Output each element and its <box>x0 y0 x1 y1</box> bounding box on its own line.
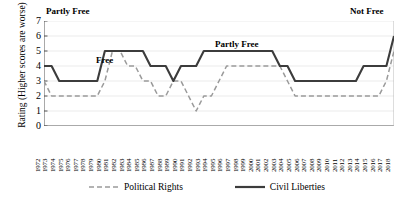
x-tick-label: 1987 <box>149 159 156 172</box>
y-tick-label: 6 <box>27 31 41 41</box>
x-tick-label: 2018 <box>385 159 392 172</box>
x-tick-label: 1974 <box>50 159 57 172</box>
legend-item-political-rights: Political Rights <box>89 182 183 192</box>
plot-area <box>44 21 394 126</box>
x-tick-label: 1979 <box>88 159 95 172</box>
x-tick-label: 2010 <box>324 159 331 172</box>
y-tick-label: 1 <box>27 106 41 116</box>
x-tick-label: 1992 <box>187 159 194 172</box>
legend-label-political-rights: Political Rights <box>124 182 183 192</box>
chart-root: Rating (Higher scores are worse) 7654321… <box>0 0 414 200</box>
x-tick-label: 2005 <box>286 159 293 172</box>
y-axis-tick-labels: 76543210 <box>26 21 41 126</box>
y-tick-label: 5 <box>27 46 41 56</box>
legend-swatch-solid <box>235 183 265 191</box>
y-tick-label: 2 <box>27 91 41 101</box>
y-tick-label: 7 <box>27 16 41 26</box>
annotation-partly-free-mid: Partly Free <box>215 39 259 49</box>
legend-swatch-dashed <box>89 183 119 191</box>
legend-label-civil-liberties: Civil Liberties <box>270 182 325 192</box>
x-tick-label: 2015 <box>362 159 369 172</box>
annotation-free: Free <box>96 55 113 65</box>
y-tick-label: 0 <box>27 121 41 131</box>
legend-item-civil-liberties: Civil Liberties <box>235 182 325 192</box>
plot-svg <box>44 21 394 126</box>
x-tick-label: 1982 <box>111 159 118 172</box>
x-axis-tick-labels: 1972197319741975197619771978197919801981… <box>44 128 394 172</box>
y-tick-label: 3 <box>27 76 41 86</box>
x-tick-label: 2002 <box>263 159 270 172</box>
chart-legend: Political Rights Civil Liberties <box>0 178 414 196</box>
y-tick-label: 4 <box>27 61 41 71</box>
annotation-partly-free-left: Partly Free <box>46 6 90 16</box>
x-tick-label: 1997 <box>225 159 232 172</box>
annotation-not-free: Not Free <box>350 6 384 16</box>
